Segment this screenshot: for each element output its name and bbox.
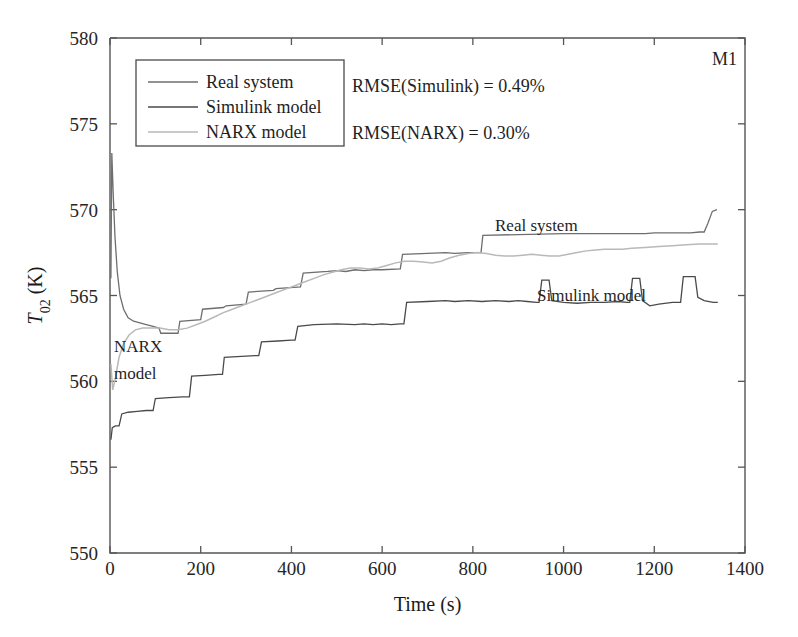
x-tick-label: 1000 <box>545 558 583 579</box>
x-tick-label: 600 <box>368 558 397 579</box>
legend-label-1: Simulink model <box>206 97 322 117</box>
y-tick-label: 550 <box>70 543 99 564</box>
x-tick-label: 800 <box>459 558 488 579</box>
x-axis-title: Time (s) <box>394 593 462 616</box>
x-tick-label: 0 <box>105 558 115 579</box>
series-line-real-system <box>111 153 717 333</box>
figure-container: 0200400600800100012001400550555560565570… <box>0 0 798 637</box>
y-tick-label: 560 <box>70 371 99 392</box>
y-axis-title: T02 (K) <box>24 267 53 325</box>
x-tick-label: 400 <box>277 558 306 579</box>
rmse-simulink-annotation: RMSE(Simulink) = 0.49% <box>352 76 545 97</box>
curve-label-real-system: Real system <box>495 216 578 235</box>
chart-legend: Real systemSimulink modelNARX model <box>136 60 344 146</box>
curve-label-simulink-model: Simulink model <box>537 286 646 305</box>
y-tick-label: 575 <box>70 114 99 135</box>
svg-text:T02 (K): T02 (K) <box>24 267 53 325</box>
curve-label-narx-line2: model <box>114 364 157 383</box>
x-tick-label: 1200 <box>635 558 673 579</box>
legend-label-0: Real system <box>206 72 294 92</box>
y-tick-label: 555 <box>70 457 99 478</box>
rmse-narx-annotation: RMSE(NARX) = 0.30% <box>352 123 530 144</box>
panel-id-label: M1 <box>712 49 737 69</box>
x-tick-label: 1400 <box>726 558 764 579</box>
y-tick-label: 565 <box>70 286 99 307</box>
x-tick-label: 200 <box>186 558 215 579</box>
legend-label-2: NARX model <box>206 122 307 142</box>
line-chart: 0200400600800100012001400550555560565570… <box>0 0 798 637</box>
y-tick-label: 580 <box>70 28 99 49</box>
curve-label-narx-line1: NARX <box>114 337 162 356</box>
series-line-narx-model <box>111 244 718 390</box>
y-tick-label: 570 <box>70 200 99 221</box>
